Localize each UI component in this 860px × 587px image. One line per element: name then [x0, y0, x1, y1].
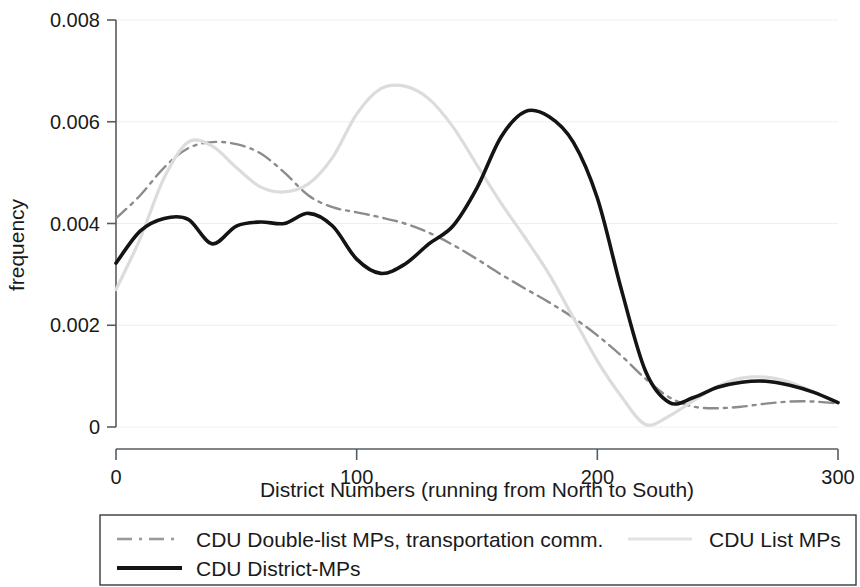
legend-label-double-list: CDU Double-list MPs, transportation comm… [196, 528, 603, 551]
x-axis-title: District Numbers (running from North to … [260, 478, 694, 501]
kernel-density-chart: 00.0020.0040.0060.008 0100200300 Distric… [0, 0, 860, 587]
x-tick-label-0: 0 [110, 466, 121, 488]
y-axis-title: frequency [5, 198, 28, 291]
y-tick-label-2: 0.004 [50, 213, 100, 235]
legend-label-list-mps: CDU List MPs [709, 528, 841, 551]
x-tick-label-3: 300 [821, 466, 854, 488]
y-tick-label-0: 0 [89, 416, 100, 438]
legend-label-district-mps: CDU District-MPs [196, 557, 360, 580]
y-tick-label-4: 0.008 [50, 9, 100, 31]
y-tick-label-3: 0.006 [50, 111, 100, 133]
y-tick-label-1: 0.002 [50, 314, 100, 336]
